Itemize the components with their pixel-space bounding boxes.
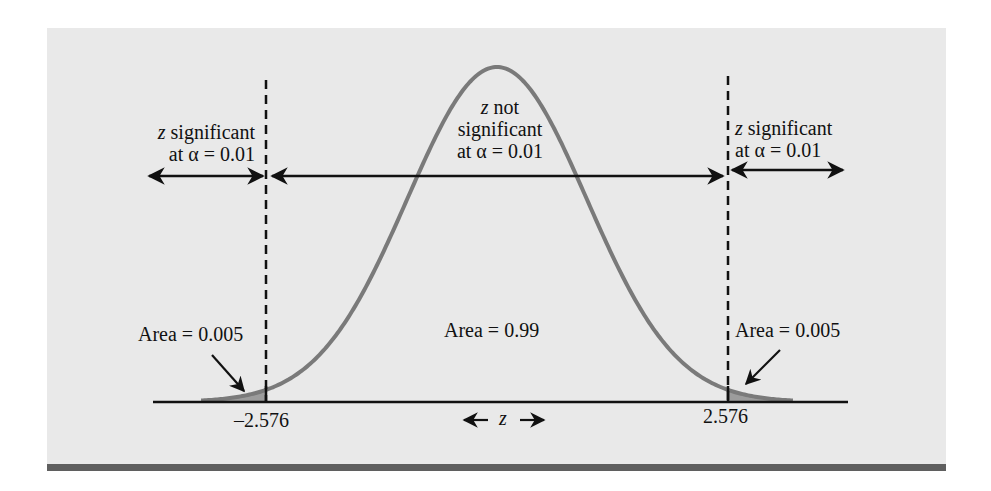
right-area-pointer-arrow [746,350,780,384]
left-region-label: z significant at α = 0.01 [140,121,255,165]
left-area-label: Area = 0.005 [138,323,243,345]
right-region-label: z significant at α = 0.01 [735,117,865,161]
center-area-label: Area = 0.99 [444,319,539,341]
center-region-label: z not significant at α = 0.01 [420,96,580,162]
left-critical-value: –2.576 [234,409,289,431]
right-critical-value: 2.576 [703,405,748,427]
axis-variable-label: z [499,407,507,429]
right-region-var: z [735,117,743,139]
left-area-pointer-arrow [212,355,244,391]
left-region-line1: significant [166,121,255,143]
center-region-line2: significant [420,118,580,140]
center-region-var: z [481,96,489,118]
left-region-var: z [158,121,166,143]
left-region-line2: at α = 0.01 [140,143,255,165]
right-region-line1: significant [743,117,832,139]
center-region-line1: not [489,96,520,118]
center-region-line3: at α = 0.01 [420,140,580,162]
right-region-line2: at α = 0.01 [735,139,865,161]
right-area-label: Area = 0.005 [735,319,840,341]
normal-curve-diagram [0,0,991,491]
